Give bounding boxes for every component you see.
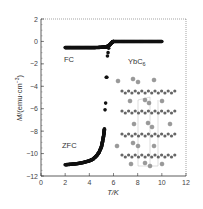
fc-label: FC (64, 55, 75, 64)
crystal-structure-inset (115, 77, 176, 168)
compound-label: YbC6 (128, 57, 146, 67)
svg-text:8: 8 (136, 179, 140, 186)
svg-text:−10: −10 (26, 150, 38, 157)
magnetization-chart: 02468101220−2−4−6−8−10−12 FC ZFC YbC6 T/… (0, 0, 203, 209)
svg-text:0: 0 (39, 179, 43, 186)
y-axis-label: M/(emu·cm−3) (14, 74, 24, 121)
svg-text:0: 0 (34, 38, 38, 45)
svg-text:−6: −6 (30, 105, 38, 112)
svg-text:−8: −8 (30, 128, 38, 135)
svg-text:12: 12 (182, 179, 190, 186)
svg-text:−4: −4 (30, 83, 38, 90)
svg-text:−12: −12 (26, 173, 38, 180)
x-axis-label: T/K (107, 188, 120, 197)
svg-text:2: 2 (63, 179, 67, 186)
svg-text:2: 2 (34, 16, 38, 23)
zfc-label: ZFC (62, 141, 77, 150)
svg-text:10: 10 (158, 179, 166, 186)
svg-text:4: 4 (87, 179, 91, 186)
axis-ticks: 02468101220−2−4−6−8−10−12 (26, 16, 190, 187)
svg-text:−2: −2 (30, 60, 38, 67)
svg-text:6: 6 (112, 179, 116, 186)
